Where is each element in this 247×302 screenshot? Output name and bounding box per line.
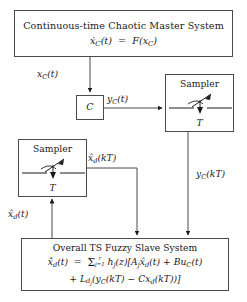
signal-label-yckt: yC(kT) <box>196 168 225 181</box>
sampler-block-right: Sampler T <box>165 74 234 132</box>
master-system-block: Continuous-time Chaotic Master System ẋC… <box>14 10 233 57</box>
block-diagram: Continuous-time Chaotic Master System ẋC… <box>0 0 247 302</box>
sampler-right-period: T <box>166 117 233 128</box>
signal-label-yc: yC(t) <box>107 93 128 106</box>
signal-label-xdkt: x̂d(kT) <box>88 152 116 165</box>
slave-system-equation-line2: + Ldj(yC(kT) − Cxd(kT))] <box>69 273 180 288</box>
wire-xdkt-to-slave <box>86 168 137 235</box>
output-gain-block-c: C <box>76 95 104 120</box>
signal-label-xdt: x̂d(t) <box>8 208 28 221</box>
master-system-equation: ẋC(t) = F(xC) <box>90 35 157 49</box>
slave-system-equation-line1: ẋ̂d(t) = Σrj=1 hj(z)[Ajx̂d(t) + BuC(t) <box>48 256 203 270</box>
sampler-right-title: Sampler <box>166 78 233 89</box>
output-gain-label: C <box>86 101 93 114</box>
sampler-left-period: T <box>19 182 86 193</box>
sampler-left-title: Sampler <box>19 143 86 154</box>
signal-label-xc: xC(t) <box>37 68 58 81</box>
sampler-block-left: Sampler T <box>18 139 87 197</box>
master-system-title: Continuous-time Chaotic Master System <box>23 20 224 33</box>
sampler-switch-icon <box>19 156 88 182</box>
slave-system-block: Overall TS Fuzzy Slave System ẋ̂d(t) = Σ… <box>21 238 229 291</box>
sampler-switch-icon <box>166 91 235 117</box>
slave-system-title: Overall TS Fuzzy Slave System <box>53 242 198 254</box>
